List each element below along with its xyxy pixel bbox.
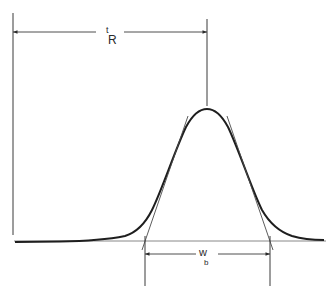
tangent-left [142,116,188,250]
chromatogram-diagram: t R w b [0,0,331,293]
base-width-label: w [198,246,207,258]
retention-time-subscript: R [108,33,117,47]
peak-curve [15,109,324,242]
tangent-right [227,116,273,250]
base-width-subscript: b [204,258,209,267]
